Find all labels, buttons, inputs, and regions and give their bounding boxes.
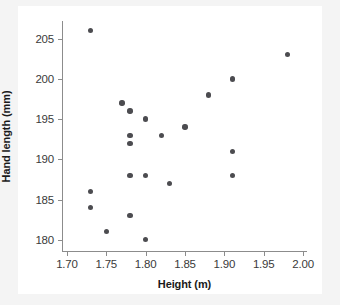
plot-area: 1801851901952002051.701.751.801.851.901.… [62, 21, 307, 252]
x-axis-tick [224, 251, 225, 256]
data-point [143, 237, 148, 242]
x-axis-tick [146, 251, 147, 256]
y-axis-tick-label: 200 [35, 73, 54, 85]
x-axis-tick-label: 1.95 [253, 258, 275, 270]
y-axis-tick-label: 205 [35, 33, 54, 45]
y-axis-tick-label: 185 [35, 194, 54, 206]
x-axis-tick [303, 251, 304, 256]
y-axis-title: Hand length (mm) [0, 21, 14, 252]
y-axis-tick-label: 180 [35, 234, 54, 246]
x-axis-title: Height (m) [62, 278, 307, 290]
x-axis-tick-label: 1.75 [95, 258, 117, 270]
y-axis-tick [58, 119, 63, 120]
data-point [285, 52, 290, 57]
data-point [104, 229, 109, 234]
x-axis-tick [67, 251, 68, 256]
x-axis-tick [185, 251, 186, 256]
data-point [206, 92, 211, 97]
x-axis-tick [106, 251, 107, 256]
y-axis-tick [58, 79, 63, 80]
y-axis-tick-label: 195 [35, 113, 54, 125]
x-axis-tick-label: 2.00 [292, 258, 314, 270]
data-point [127, 173, 132, 178]
x-axis-tick-label: 1.85 [174, 258, 196, 270]
x-axis-tick [264, 251, 265, 256]
data-point [143, 116, 148, 121]
y-axis-tick [58, 200, 63, 201]
x-axis-tick-label: 1.70 [56, 258, 78, 270]
data-point [119, 100, 124, 105]
data-point [88, 205, 93, 210]
data-point [127, 133, 132, 138]
y-axis-tick [58, 39, 63, 40]
data-point [88, 28, 93, 33]
data-point [167, 181, 172, 186]
x-axis-tick-label: 1.90 [214, 258, 236, 270]
data-point [127, 108, 132, 113]
data-point [159, 133, 164, 138]
data-point [127, 213, 132, 218]
scatter-plot-figure: 1801851901952002051.701.751.801.851.901.… [0, 0, 340, 305]
data-point [88, 189, 93, 194]
y-axis-tick [58, 159, 63, 160]
data-point [230, 76, 235, 81]
y-axis-tick-label: 190 [35, 153, 54, 165]
y-axis-tick [58, 240, 63, 241]
x-axis-tick-label: 1.80 [135, 258, 157, 270]
data-point [127, 141, 132, 146]
data-point [230, 173, 235, 178]
data-point [230, 149, 235, 154]
data-point [143, 173, 148, 178]
data-point [182, 124, 187, 129]
